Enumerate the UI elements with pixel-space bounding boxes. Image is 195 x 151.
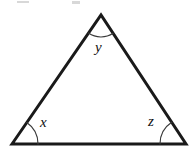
top-crop-artifact-left: [17, 1, 29, 3]
angle-label-z: z: [148, 114, 154, 129]
angle-label-y: y: [95, 40, 102, 55]
triangle-figure: x y z: [0, 0, 195, 151]
triangle-outline: [12, 15, 186, 144]
top-crop-artifact-right: [72, 1, 80, 4]
angle-label-x: x: [40, 115, 47, 130]
triangle-diagram-canvas: [0, 0, 195, 151]
